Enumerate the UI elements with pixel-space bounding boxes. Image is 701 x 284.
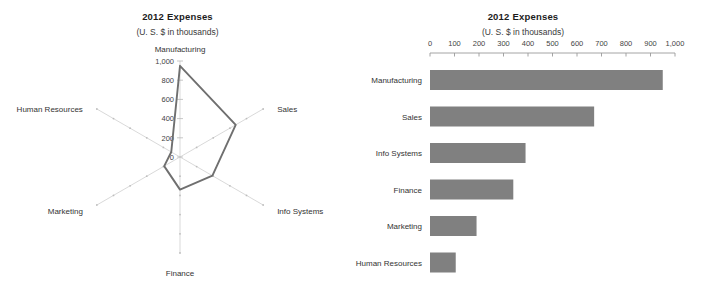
bar-category-label-finance: Finance: [394, 186, 423, 195]
radar-axis-spoke: [180, 109, 263, 157]
bar-marketing: [430, 216, 477, 236]
radar-axis-tick-dot: [179, 252, 181, 254]
bar-manufacturing: [430, 70, 663, 90]
radar-axis-tick-dot: [229, 185, 231, 187]
radar-chart-title: 2012 Expenses: [0, 11, 355, 22]
radar-axis-tick-dot: [129, 127, 131, 129]
bar-info_systems: [430, 143, 526, 163]
bar-x-tick-label: 300: [497, 39, 510, 48]
bar-x-tick-label: 600: [571, 39, 584, 48]
radar-chart-subtitle: (U. S. $ in thousands): [0, 27, 355, 37]
bar-category-label-info_systems: Info Systems: [376, 149, 422, 158]
radar-axis-tick-dot: [113, 195, 115, 197]
bar-x-tick-label: 700: [595, 39, 608, 48]
radar-category-label-finance: Finance: [166, 269, 195, 278]
bar-x-tick-label: 400: [522, 39, 535, 48]
bar-x-tick-label: 0: [428, 39, 432, 48]
bar-chart-panel: 2012 Expenses (U. S. $ in thousands) 010…: [345, 0, 701, 284]
radar-axis-tick-dot: [212, 137, 214, 139]
radar-axis-tick-dot: [146, 137, 148, 139]
radar-axis-tick-dot: [96, 204, 98, 206]
radar-category-label-info_systems: Info Systems: [277, 207, 323, 216]
radar-category-label-marketing: Marketing: [48, 207, 83, 216]
bar-category-label-manufacturing: Manufacturing: [371, 76, 422, 85]
radar-axis-tick-dot: [229, 127, 231, 129]
radar-axis-tick-dot: [179, 214, 181, 216]
radar-series-outline: [164, 66, 236, 190]
radar-axis-tick-dot: [179, 233, 181, 235]
bar-category-label-human_resources: Human Resources: [356, 259, 422, 268]
radar-category-label-human_resources: Human Resources: [17, 105, 83, 114]
radar-chart-plot: 02004006008001,000ManufacturingSalesInfo…: [0, 0, 355, 284]
radar-axis-tick-dot: [113, 118, 115, 120]
bar-x-tick-label: 100: [448, 39, 461, 48]
bar-x-tick-label: 900: [644, 39, 657, 48]
bar-chart-title: 2012 Expenses: [345, 11, 701, 22]
radar-axis-tick-dot: [246, 195, 248, 197]
bar-x-tick-label: 800: [620, 39, 633, 48]
dual-chart-figure: 2012 Expenses (U. S. $ in thousands) 020…: [0, 0, 701, 284]
bar-chart-plot: 01002003004005006007008009001,000Manufac…: [345, 0, 701, 284]
radar-axis-tick-dot: [96, 108, 98, 110]
radar-axis-spoke: [97, 157, 180, 205]
bar-sales: [430, 107, 594, 127]
radar-axis-tick-dot: [246, 118, 248, 120]
bar-human_resources: [430, 253, 456, 273]
radar-axis-tick-dot: [262, 204, 264, 206]
radar-category-label-manufacturing: Manufacturing: [155, 45, 206, 54]
bar-finance: [430, 180, 513, 200]
radar-value-tick-label: 600: [161, 95, 174, 104]
bar-category-label-marketing: Marketing: [387, 222, 422, 231]
radar-axis-tick-dot: [129, 185, 131, 187]
radar-value-tick-label: 400: [161, 114, 174, 123]
radar-axis-tick-dot: [146, 175, 148, 177]
radar-category-label-sales: Sales: [277, 105, 297, 114]
bar-chart-subtitle: (U. S. $ in thousands): [345, 27, 701, 37]
radar-axis-tick-dot: [162, 147, 164, 149]
bar-x-tick-label: 200: [473, 39, 486, 48]
bar-category-label-sales: Sales: [402, 113, 422, 122]
radar-chart-panel: 2012 Expenses (U. S. $ in thousands) 020…: [0, 0, 355, 284]
bar-x-tick-label: 500: [546, 39, 559, 48]
radar-axis-tick-dot: [196, 147, 198, 149]
bar-x-tick-label: 1,000: [666, 39, 685, 48]
radar-axis-tick-dot: [196, 166, 198, 168]
radar-axis-tick-dot: [179, 175, 181, 177]
radar-axis-tick-dot: [179, 195, 181, 197]
radar-axis-tick-dot: [262, 108, 264, 110]
radar-value-tick-label: 800: [161, 76, 174, 85]
radar-axis-spoke: [180, 157, 263, 205]
radar-value-tick-label: 1,000: [155, 57, 174, 66]
